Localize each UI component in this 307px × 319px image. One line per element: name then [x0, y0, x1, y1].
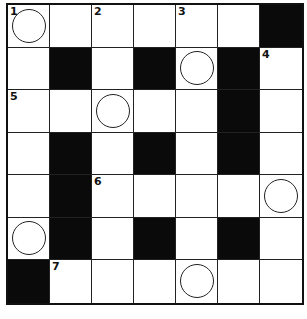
black-square: [8, 260, 50, 303]
black-square: [218, 48, 260, 91]
crossword-cell[interactable]: 1: [8, 5, 50, 48]
circle-marker-icon: [264, 179, 298, 213]
black-square: [50, 133, 92, 176]
circle-marker-icon: [180, 264, 214, 298]
crossword-cell[interactable]: 2: [92, 5, 134, 48]
black-square: [218, 90, 260, 133]
crossword-cell[interactable]: 3: [176, 5, 218, 48]
crossword-cell[interactable]: [92, 260, 134, 303]
crossword-cell[interactable]: [176, 218, 218, 261]
black-square: [218, 218, 260, 261]
crossword-cell[interactable]: [92, 133, 134, 176]
crossword-cell[interactable]: [260, 133, 302, 176]
crossword-cell[interactable]: [260, 218, 302, 261]
crossword-cell[interactable]: [134, 5, 176, 48]
crossword-cell[interactable]: [176, 260, 218, 303]
crossword-cell[interactable]: [176, 48, 218, 91]
crossword-cell[interactable]: [218, 260, 260, 303]
clue-number: 7: [52, 261, 60, 272]
crossword-cell[interactable]: [8, 175, 50, 218]
clue-number: 2: [94, 6, 102, 17]
black-square: [50, 48, 92, 91]
black-square: [134, 133, 176, 176]
crossword-cell[interactable]: 4: [260, 48, 302, 91]
crossword-cell[interactable]: [176, 90, 218, 133]
crossword-cell[interactable]: [92, 218, 134, 261]
black-square: [260, 5, 302, 48]
clue-number: 4: [262, 49, 270, 60]
crossword-cell[interactable]: [8, 133, 50, 176]
crossword-cell[interactable]: [260, 175, 302, 218]
crossword-cell[interactable]: [134, 175, 176, 218]
circle-marker-icon: [180, 51, 214, 85]
black-square: [134, 218, 176, 261]
crossword-cell[interactable]: [92, 48, 134, 91]
crossword-cell[interactable]: [50, 5, 92, 48]
crossword-cell[interactable]: 7: [50, 260, 92, 303]
circle-marker-icon: [12, 221, 46, 255]
clue-number: 3: [178, 6, 186, 17]
circle-marker-icon: [12, 9, 46, 43]
crossword-cell[interactable]: [260, 90, 302, 133]
crossword-cell[interactable]: [176, 133, 218, 176]
crossword-cell[interactable]: [92, 90, 134, 133]
crossword-cell[interactable]: [134, 90, 176, 133]
black-square: [50, 218, 92, 261]
crossword-cell[interactable]: 6: [92, 175, 134, 218]
clue-number: 6: [94, 176, 102, 187]
crossword-cell[interactable]: [50, 90, 92, 133]
black-square: [218, 133, 260, 176]
crossword-cell[interactable]: [8, 48, 50, 91]
crossword-grid: 1234567: [6, 3, 304, 305]
crossword-cell[interactable]: 5: [8, 90, 50, 133]
black-square: [50, 175, 92, 218]
crossword-cell[interactable]: [8, 218, 50, 261]
crossword-cell[interactable]: [218, 5, 260, 48]
crossword-cell[interactable]: [134, 260, 176, 303]
crossword-cell[interactable]: [260, 260, 302, 303]
black-square: [134, 48, 176, 91]
circle-marker-icon: [96, 94, 130, 128]
crossword-cell[interactable]: [176, 175, 218, 218]
crossword-cell[interactable]: [218, 175, 260, 218]
clue-number: 5: [10, 91, 18, 102]
